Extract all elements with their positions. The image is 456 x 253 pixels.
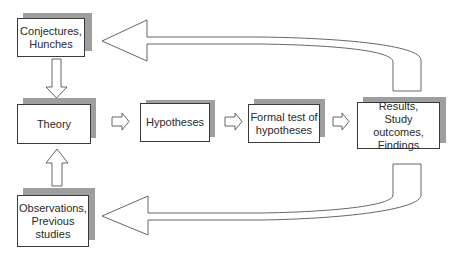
node-hypotheses-label: Hypotheses (140, 103, 210, 142)
curved-arrow-results-to-conjectures (102, 20, 421, 91)
node-results-label: Results, Study outcomes, Findings (357, 102, 440, 149)
node-formal-test-label: Formal test of hypotheses (248, 104, 320, 143)
research-cycle-diagram: Conjectures, Hunches Theory Observations… (0, 0, 456, 253)
arrow-conjectures-to-theory (46, 59, 67, 98)
arrow-formal-test-to-results (333, 113, 349, 130)
arrow-theory-to-hypotheses (112, 113, 129, 130)
arrow-observations-to-theory (46, 149, 68, 186)
arrow-hypotheses-to-formal-test (225, 113, 242, 130)
node-observations-label: Observations, Previous studies (17, 195, 89, 247)
curved-arrow-results-to-observations (102, 164, 421, 235)
node-theory-label: Theory (17, 104, 91, 144)
node-conjectures-label: Conjectures, Hunches (17, 18, 85, 57)
